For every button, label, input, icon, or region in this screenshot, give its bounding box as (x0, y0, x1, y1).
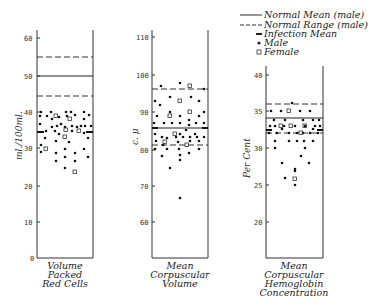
chart-figure: Normal Mean (male) Normal Range (male) I… (0, 0, 389, 306)
svg-text:40: 40 (24, 109, 32, 117)
y-axis-label: c. μ (130, 128, 140, 145)
female-points (44, 114, 81, 174)
male-points (39, 111, 93, 170)
male-dot-icon (257, 41, 260, 44)
svg-text:Volume: Volume (162, 278, 198, 289)
y-axis-label: Per Cent (242, 138, 252, 179)
panel-volume-packed-red-cells: 60 50 40 30 20 10 0 ml./100ml. (14, 30, 93, 289)
svg-text:20: 20 (24, 183, 32, 191)
y-axis-ticks: 60 50 40 30 20 10 0 (24, 35, 40, 263)
y-axis-ticks: 40 35 30 25 20 (254, 72, 269, 227)
svg-text:Red Cells: Red Cells (41, 278, 88, 289)
svg-text:70: 70 (140, 183, 148, 191)
svg-text:60: 60 (24, 35, 32, 43)
male-points (268, 102, 322, 187)
svg-text:0: 0 (30, 255, 34, 263)
panel-mean-corpuscular-hemoglobin-concentration: 40 35 30 25 20 Per Cent Mean C (242, 66, 328, 298)
svg-text:90: 90 (140, 109, 148, 117)
female-square-icon (257, 50, 261, 54)
panel-mean-corpuscular-volume: 110 100 90 80 70 60 c. μ (130, 30, 211, 289)
svg-text:80: 80 (140, 147, 148, 155)
svg-text:60: 60 (140, 219, 148, 227)
legend: Normal Mean (male) Normal Range (male) I… (240, 9, 368, 57)
svg-text:100: 100 (136, 72, 149, 80)
svg-text:35: 35 (254, 108, 262, 116)
svg-text:110: 110 (136, 34, 149, 42)
svg-text:20: 20 (254, 219, 262, 227)
svg-text:10: 10 (24, 219, 32, 227)
svg-text:30: 30 (254, 145, 262, 153)
svg-text:50: 50 (24, 73, 32, 81)
svg-text:30: 30 (24, 145, 32, 153)
legend-female: Female (263, 46, 299, 57)
svg-text:40: 40 (254, 72, 262, 80)
y-axis-label: ml./100ml. (14, 111, 24, 160)
svg-text:25: 25 (254, 182, 262, 190)
svg-text:Concentration: Concentration (260, 287, 329, 298)
